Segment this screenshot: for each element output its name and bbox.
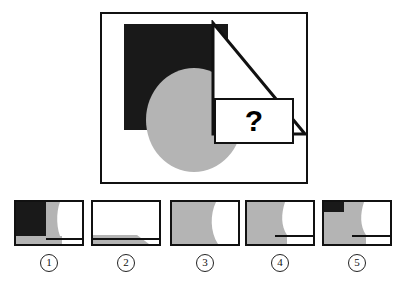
- puzzle-root: ? 1: [0, 0, 415, 292]
- question-mark-label: ?: [245, 106, 263, 136]
- answer-option-2[interactable]: 2: [91, 200, 161, 272]
- stimulus-panel: ?: [100, 12, 308, 184]
- answer-option-4[interactable]: 4: [245, 200, 315, 272]
- option-2-thumbnail[interactable]: [91, 200, 161, 246]
- option-3-thumbnail[interactable]: [170, 200, 240, 246]
- option-1-graphic: [16, 202, 82, 244]
- option-4-number: 4: [271, 254, 289, 272]
- question-card: ?: [214, 98, 294, 144]
- answer-option-3[interactable]: 3: [170, 200, 240, 272]
- option-5-thumbnail[interactable]: [322, 200, 392, 246]
- stimulus-inner: ?: [102, 14, 306, 182]
- answer-options-row: 1 2 3: [0, 200, 415, 290]
- answer-option-1[interactable]: 1: [14, 200, 84, 272]
- option-3-number: 3: [196, 254, 214, 272]
- option-5-number: 5: [348, 254, 366, 272]
- option-1-number: 1: [40, 254, 58, 272]
- option-3-graphic: [172, 202, 238, 244]
- option-2-number: 2: [117, 254, 135, 272]
- option-5-graphic: [324, 202, 390, 244]
- option-4-graphic: [247, 202, 313, 244]
- option-1-thumbnail[interactable]: [14, 200, 84, 246]
- option-4-thumbnail[interactable]: [245, 200, 315, 246]
- option-2-graphic: [93, 202, 159, 244]
- answer-option-5[interactable]: 5: [322, 200, 392, 272]
